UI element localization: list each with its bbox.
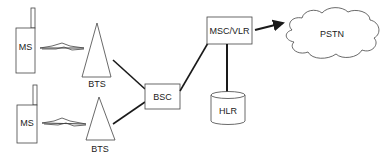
bsc-label: BSC — [153, 92, 172, 102]
bts-top-tower-icon — [82, 23, 111, 77]
bts-top-label: BTS — [88, 79, 106, 89]
bts-bottom-bsc-link — [113, 102, 145, 124]
radio-link-top-icon — [40, 43, 84, 50]
hlr-node: HLR — [211, 92, 245, 125]
ms-top-label: MS — [19, 42, 33, 52]
pstn-label: PSTN — [320, 29, 344, 39]
bsc-node: BSC — [145, 84, 180, 109]
bts-bottom-node: BTS — [86, 97, 115, 154]
ms-bottom-node: MS — [17, 85, 37, 143]
ms-bottom-label: MS — [20, 118, 34, 128]
bts-top-bsc-link — [113, 60, 145, 89]
bts-bottom-tower-icon — [86, 97, 115, 140]
msc-vlr-node: MSC/VLR — [207, 17, 252, 44]
hlr-label: HLR — [219, 106, 238, 116]
ms-top-antenna — [31, 8, 35, 28]
radio-link-bottom-icon — [42, 118, 86, 126]
msc-vlr-label: MSC/VLR — [209, 26, 250, 36]
ms-bottom-antenna — [33, 85, 37, 105]
pstn-node: PSTN — [286, 8, 379, 59]
gsm-diagram: MS BTS MS BTS BSC MSC/VLR — [0, 0, 388, 163]
hlr-database-icon — [211, 92, 245, 99]
bsc-msc-link — [180, 43, 208, 91]
bts-bottom-label: BTS — [91, 144, 109, 154]
bts-top-node: BTS — [82, 23, 111, 89]
ms-top-node: MS — [16, 8, 35, 73]
msc-pstn-arrow — [255, 23, 283, 30]
